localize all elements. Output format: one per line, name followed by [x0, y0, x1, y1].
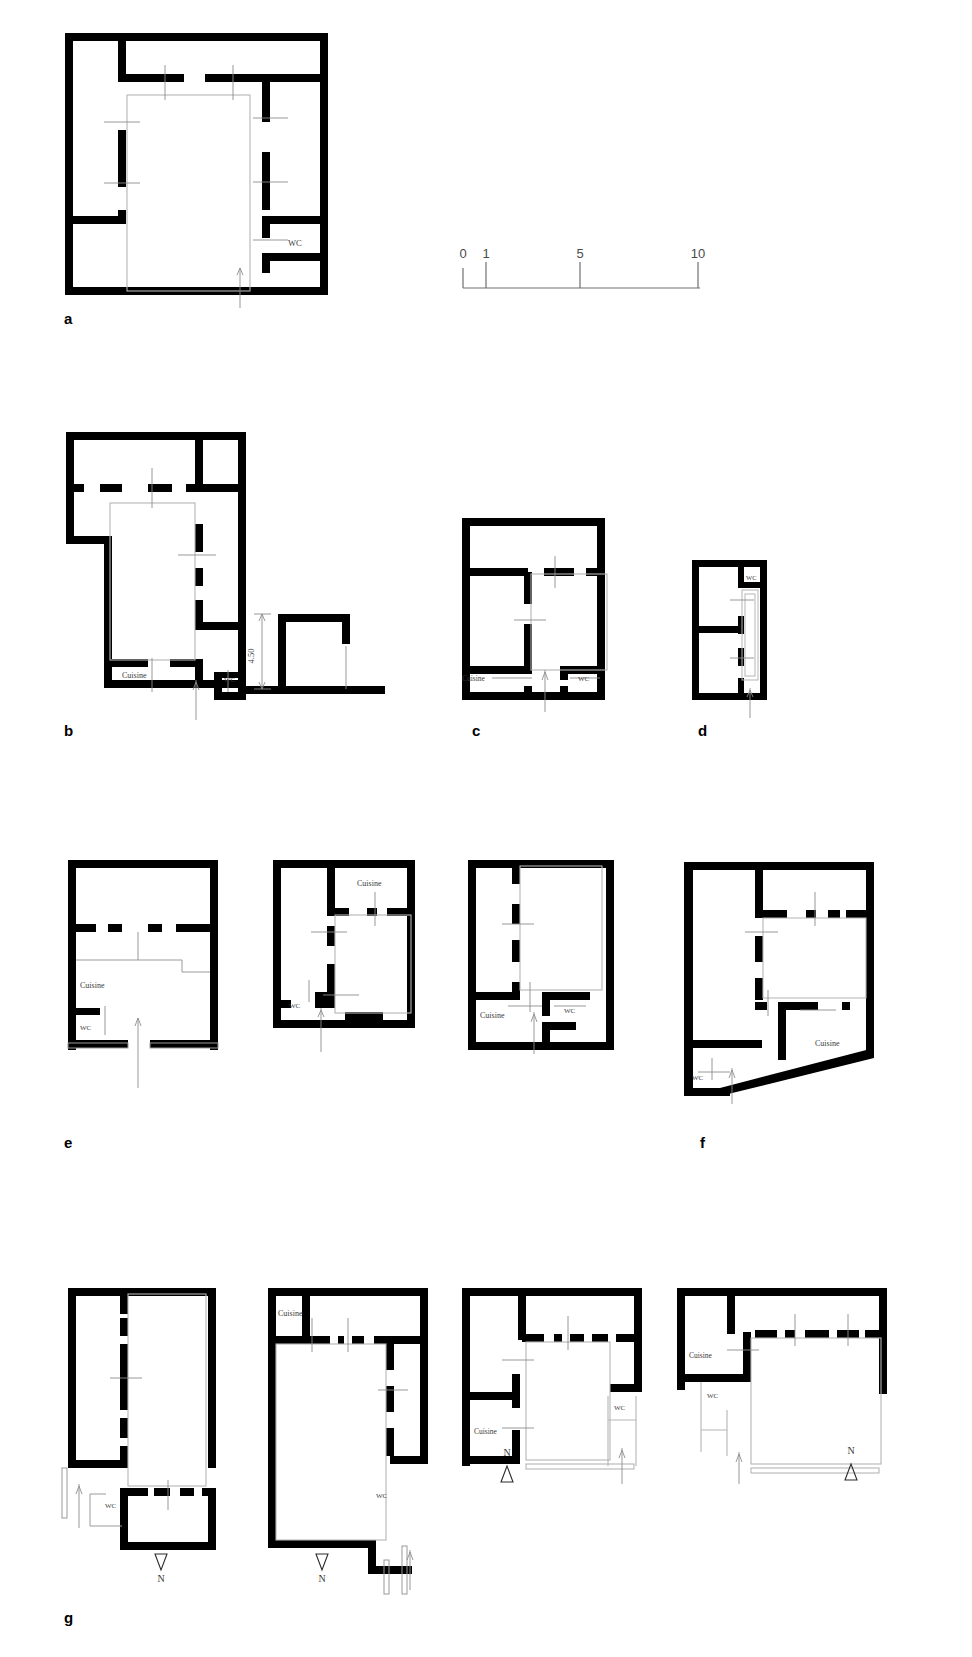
plan-g1-wc-label: WC	[105, 1502, 117, 1510]
panel-a: WC a	[0, 0, 400, 340]
plan-e3-cuisine-label: Cuisine	[480, 1011, 505, 1020]
plan-g3-wc-label: WC	[614, 1404, 626, 1412]
plan-g4-north-label: N	[847, 1445, 854, 1456]
plan-c-1: Cuisine WC	[440, 500, 640, 730]
plan-f-wc-label: WC	[692, 1074, 704, 1082]
panel-b: Cuisine WC 4.50 b	[0, 420, 420, 740]
plan-e1-cuisine-label: Cuisine	[80, 981, 105, 990]
plan-g-4: Cuisine WC N	[665, 1270, 905, 1600]
plan-g4-wc-label: WC	[707, 1392, 719, 1400]
north-arrow-down-g1: N	[155, 1554, 167, 1584]
plan-f-1: Cuisine WC	[660, 840, 950, 1130]
plan-g-2: Cuisine WC N	[250, 1270, 460, 1600]
plan-g-1: WC N	[50, 1270, 260, 1600]
plan-g2-wc-label: WC	[376, 1492, 388, 1500]
plan-c-cuisine-label: Cuisine	[462, 674, 486, 683]
plan-g3-north-label: N	[503, 1447, 510, 1458]
plan-d-wc-label: WC	[746, 574, 756, 581]
plan-e-2: Cuisine WC	[255, 840, 455, 1130]
panel-letter-d: d	[698, 723, 707, 738]
panel-d: WC d	[670, 540, 810, 730]
plan-e2-cuisine-label: Cuisine	[357, 879, 382, 888]
scale-tick-5: 5	[576, 246, 583, 261]
panel-letter-c: c	[472, 723, 480, 738]
plan-e1-wc-label: WC	[80, 1024, 92, 1032]
plan-e2-wc-label: WC	[289, 1002, 301, 1010]
plan-g-3: Cuisine WC N	[450, 1270, 680, 1600]
scale-bar-graphic: 0 1 5 10	[440, 240, 730, 310]
plan-g3-cuisine-label: Cuisine	[474, 1427, 498, 1436]
panel-c: Cuisine WC c	[440, 500, 640, 730]
plan-e-1: Cuisine WC	[50, 840, 270, 1130]
plan-g2-cuisine-label: Cuisine	[278, 1309, 303, 1318]
plan-g4-cuisine-label: Cuisine	[689, 1351, 713, 1360]
plan-a-1: WC	[0, 0, 400, 340]
north-arrow-down-g2: N	[316, 1554, 328, 1584]
panel-letter-e: e	[64, 1135, 72, 1150]
plan-a-wc-label: WC	[288, 238, 302, 248]
scale-bar: 0 1 5 10	[440, 240, 730, 314]
panel-letter-a: a	[64, 311, 72, 326]
plan-g2-north-label: N	[318, 1573, 325, 1584]
plan-c-wc-label: WC	[578, 675, 590, 683]
plan-e3-wc-label: WC	[564, 1007, 576, 1015]
plan-b-dim-label: 4.50	[246, 649, 256, 664]
north-arrow-up-g3: N	[501, 1447, 513, 1482]
plan-d-1: WC	[670, 540, 810, 730]
panel-letter-g: g	[64, 1610, 73, 1625]
plan-g1-north-label: N	[157, 1573, 164, 1584]
floor-plan-figure: WC a 0 1 5 10	[0, 0, 972, 1657]
panel-letter-b: b	[64, 723, 73, 738]
plan-b-2-section: 4.50	[240, 590, 400, 700]
panel-f: Cuisine WC f	[660, 840, 950, 1130]
plan-b-cuisine-label: Cuisine	[122, 671, 147, 680]
plan-b-wc-label: WC	[224, 676, 236, 684]
north-arrow-up-g4: N	[845, 1445, 857, 1480]
scale-tick-1: 1	[482, 246, 489, 261]
panel-letter-f: f	[700, 1135, 705, 1150]
plan-e-3: Cuisine WC	[450, 840, 650, 1130]
scale-tick-0: 0	[459, 246, 466, 261]
plan-f-cuisine-label: Cuisine	[815, 1039, 840, 1048]
scale-tick-10: 10	[691, 246, 705, 261]
